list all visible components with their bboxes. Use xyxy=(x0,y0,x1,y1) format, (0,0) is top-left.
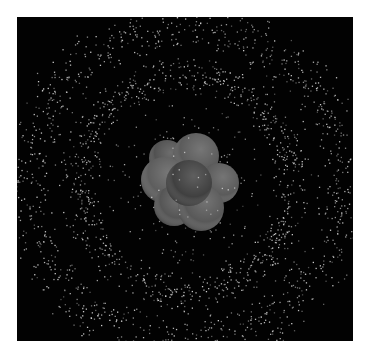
atom-render-frame xyxy=(17,17,353,341)
nucleus xyxy=(141,133,239,231)
atom-scene xyxy=(17,17,353,341)
